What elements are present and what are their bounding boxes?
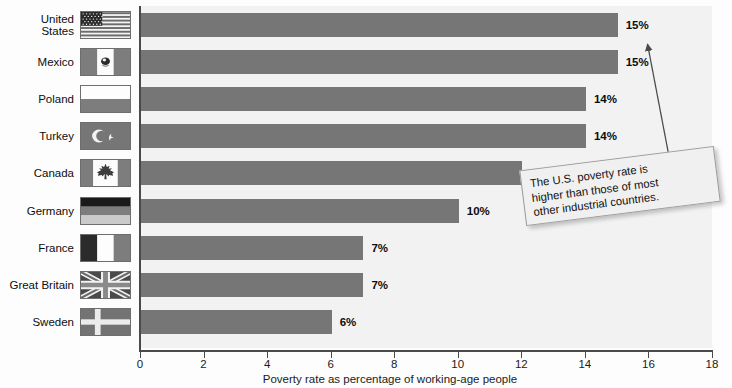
flag-canada-icon <box>80 159 131 187</box>
country-label-line: States <box>41 25 74 37</box>
chart-canvas: UnitedStates 15%Mexico 15%Poland 14%Turk… <box>0 0 732 388</box>
country-label-line: Great Britain <box>9 279 74 291</box>
country-label-line: Turkey <box>39 130 74 142</box>
x-axis-tick-label: 8 <box>391 358 397 370</box>
country-label-line: United <box>41 12 74 24</box>
country-label: Sweden <box>0 316 74 329</box>
bar <box>141 310 332 334</box>
country-label-line: Germany <box>27 204 74 216</box>
chart-row: Mexico 15% <box>0 43 732 80</box>
flag-germany-icon <box>80 197 131 225</box>
bar-value-label: 10% <box>467 205 490 217</box>
x-axis-tick-label: 16 <box>642 358 655 370</box>
country-label: France <box>0 241 74 254</box>
chart-row: Great Britain 7% <box>0 266 732 303</box>
x-axis-tick-label: 2 <box>200 358 206 370</box>
bar <box>141 161 522 185</box>
country-label: UnitedStates <box>0 12 74 37</box>
country-label-line: Sweden <box>32 316 74 328</box>
x-axis-tick-label: 12 <box>515 358 528 370</box>
bar <box>141 13 618 37</box>
bar-value-label: 6% <box>340 316 357 328</box>
bar-value-label: 7% <box>371 242 388 254</box>
flag-poland-icon <box>80 85 131 113</box>
x-axis-tick-label: 0 <box>137 358 143 370</box>
bar <box>141 50 618 74</box>
bar-value-label: 14% <box>594 93 617 105</box>
flag-united-states-icon <box>80 11 131 39</box>
bar-value-label: 15% <box>626 19 649 31</box>
x-axis-line <box>139 350 713 352</box>
bar <box>141 273 363 297</box>
flag-turkey-icon <box>80 122 131 150</box>
chart-row: Turkey 14% <box>0 118 732 155</box>
country-label: Canada <box>0 167 74 180</box>
country-label-line: Canada <box>34 167 74 179</box>
country-label-line: Poland <box>38 93 74 105</box>
bar-value-label: 15% <box>626 56 649 68</box>
flag-sweden-icon <box>80 308 131 336</box>
bar-value-label: 14% <box>594 130 617 142</box>
flag-mexico-icon <box>80 48 131 76</box>
country-label-line: Mexico <box>38 55 74 67</box>
flag-france-icon <box>80 234 131 262</box>
chart-row: France 7% <box>0 229 732 266</box>
country-label: Poland <box>0 93 74 106</box>
bar <box>141 236 363 260</box>
bar-value-label: 7% <box>371 279 388 291</box>
bar <box>141 124 586 148</box>
country-label: Turkey <box>0 130 74 143</box>
x-axis-tick-label: 14 <box>578 358 591 370</box>
country-label: Germany <box>0 204 74 217</box>
country-label: Great Britain <box>0 279 74 292</box>
x-axis-tick-label: 4 <box>264 358 270 370</box>
x-axis-tick-label: 18 <box>706 358 719 370</box>
x-axis-tick-label: 6 <box>327 358 333 370</box>
country-label: Mexico <box>0 55 74 68</box>
chart-row: Poland 14% <box>0 80 732 117</box>
country-label-line: France <box>38 241 74 253</box>
bar <box>141 87 586 111</box>
chart-row: UnitedStates 15% <box>0 6 732 43</box>
chart-row: Sweden 6% <box>0 304 732 341</box>
flag-great-britain-icon <box>80 271 131 299</box>
bar <box>141 199 459 223</box>
x-axis-title: Poverty rate as percentage of working-ag… <box>0 373 732 385</box>
x-axis-tick-label: 10 <box>451 358 464 370</box>
x-axis-title-text: Poverty rate as percentage of working-ag… <box>263 373 517 385</box>
